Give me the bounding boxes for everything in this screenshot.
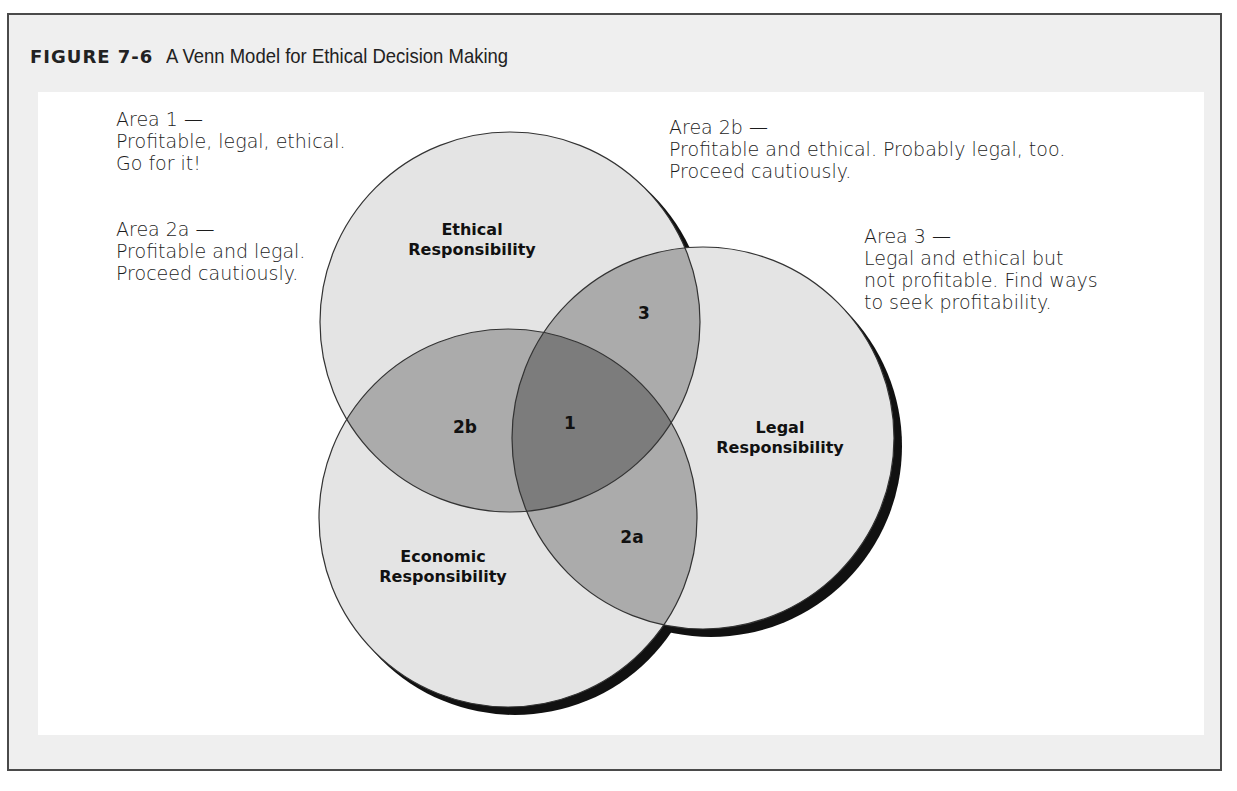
area-1-line2: Go for it! [116, 152, 346, 174]
area-1-title: Area 1 — [116, 108, 346, 130]
area-2a-line1: Profitable and legal. [116, 240, 305, 262]
economic-label-line1: Economic [379, 547, 507, 567]
area-2a-title: Area 2a — [116, 218, 305, 240]
region-2b-label: 2b [453, 417, 477, 437]
region-1-label: 1 [564, 413, 576, 433]
area-2b-line1: Profitable and ethical. Probably legal, … [669, 138, 1065, 160]
area-2a-note: Area 2a — Profitable and legal. Proceed … [116, 218, 305, 284]
legal-label-line2: Responsibility [716, 438, 844, 458]
area-1-note: Area 1 — Profitable, legal, ethical. Go … [116, 108, 346, 174]
legal-responsibility-label: Legal Responsibility [716, 418, 844, 458]
area-2b-line2: Proceed cautiously. [669, 160, 1065, 182]
legal-label-line1: Legal [716, 418, 844, 438]
area-3-note: Area 3 — Legal and ethical but not profi… [864, 225, 1098, 313]
area-2b-note: Area 2b — Profitable and ethical. Probab… [669, 116, 1065, 182]
area-3-line3: to seek profitability. [864, 291, 1098, 313]
area-1-line1: Profitable, legal, ethical. [116, 130, 346, 152]
area-3-title: Area 3 — [864, 225, 1098, 247]
region-3-label: 3 [638, 303, 650, 323]
area-2b-title: Area 2b — [669, 116, 1065, 138]
ethical-label-line2: Responsibility [408, 240, 536, 260]
region-2a-label: 2a [620, 527, 643, 547]
area-3-line2: not profitable. Find ways [864, 269, 1098, 291]
area-2a-line2: Proceed cautiously. [116, 262, 305, 284]
area-3-line1: Legal and ethical but [864, 247, 1098, 269]
economic-responsibility-label: Economic Responsibility [379, 547, 507, 587]
ethical-responsibility-label: Ethical Responsibility [408, 220, 536, 260]
economic-label-line2: Responsibility [379, 567, 507, 587]
ethical-label-line1: Ethical [408, 220, 536, 240]
